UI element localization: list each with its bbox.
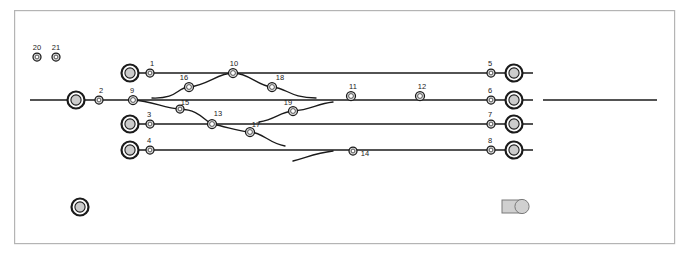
node-2-core xyxy=(97,98,101,102)
terminal-left-t4[interactable] xyxy=(122,142,139,159)
terminal-right-t4[interactable] xyxy=(506,142,523,159)
node-6-label: 6 xyxy=(488,86,492,95)
node-8-label: 8 xyxy=(488,136,492,145)
legend-station-symbol[interactable] xyxy=(72,199,89,216)
node-6-core xyxy=(489,98,493,102)
node-16-core xyxy=(187,85,192,90)
node-15-core xyxy=(178,107,182,111)
legend-tag-symbol[interactable] xyxy=(502,199,529,213)
terminal-left-main[interactable] xyxy=(68,92,85,109)
legend-station-symbol-inner-ring xyxy=(75,202,85,212)
terminal-right-t1[interactable] xyxy=(506,65,523,82)
node-11-core xyxy=(349,94,354,99)
node-20-label: 20 xyxy=(33,43,41,52)
node-7-label: 7 xyxy=(488,110,492,119)
node-4-label: 4 xyxy=(147,136,151,145)
terminal-left-t4-inner-ring xyxy=(125,145,135,155)
terminal-right-t4-inner-ring xyxy=(509,145,519,155)
node-19-label: 19 xyxy=(284,98,292,107)
node-5-core xyxy=(489,71,493,75)
terminal-left-t1[interactable] xyxy=(122,65,139,82)
terminal-left-t3[interactable] xyxy=(122,116,139,133)
node-10-label: 10 xyxy=(230,59,238,68)
node-2-label: 2 xyxy=(99,86,103,95)
node-12-core xyxy=(418,94,423,99)
node-16-label: 16 xyxy=(180,73,188,82)
node-7-core xyxy=(489,122,493,126)
terminal-right-t3-inner-ring xyxy=(509,119,519,129)
node-13-label: 13 xyxy=(214,109,222,118)
node-20-core xyxy=(35,55,39,59)
node-1-core xyxy=(148,71,152,75)
node-18-label: 18 xyxy=(276,73,284,82)
terminal-left-t1-inner-ring xyxy=(125,68,135,78)
node-11-label: 11 xyxy=(349,82,357,91)
terminal-right-t1-inner-ring xyxy=(509,68,519,78)
node-3-label: 3 xyxy=(147,110,151,119)
legend-tag-symbol-ring xyxy=(515,199,529,213)
node-10-core xyxy=(231,71,236,76)
diagram-root: 123456789101112131415161718192021 xyxy=(0,0,689,255)
diagram-frame xyxy=(15,11,675,244)
terminal-left-main-inner-ring xyxy=(71,95,81,105)
node-9-core xyxy=(131,98,136,103)
node-21-core xyxy=(54,55,58,59)
node-17-label: 17 xyxy=(252,120,260,129)
node-19-core xyxy=(291,109,296,114)
node-8-core xyxy=(489,148,493,152)
node-15-label: 15 xyxy=(181,98,189,107)
node-21-label: 21 xyxy=(52,43,60,52)
terminal-right-t3[interactable] xyxy=(506,116,523,133)
node-14-label: 14 xyxy=(361,149,369,158)
node-12-label: 12 xyxy=(418,82,426,91)
terminal-left-t3-inner-ring xyxy=(125,119,135,129)
node-4-core xyxy=(148,148,152,152)
terminal-right-t2-inner-ring xyxy=(509,95,519,105)
node-14-core xyxy=(351,149,355,153)
node-3-core xyxy=(148,122,152,126)
node-1-label: 1 xyxy=(150,59,154,68)
node-13-core xyxy=(210,122,215,127)
track-schematic-svg[interactable]: 123456789101112131415161718192021 xyxy=(0,0,689,255)
node-17-core xyxy=(248,130,253,135)
terminal-right-t2[interactable] xyxy=(506,92,523,109)
node-9-label: 9 xyxy=(130,86,134,95)
node-18-core xyxy=(270,85,275,90)
node-5-label: 5 xyxy=(488,59,492,68)
